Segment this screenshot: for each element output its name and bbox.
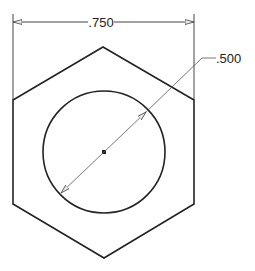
diameter-leader-line: [146, 58, 216, 112]
diameter-dimension-text: .500: [216, 51, 241, 66]
diameter-dimension-line: [61, 112, 146, 193]
technical-drawing: .750 .500: [0, 0, 255, 271]
width-dimension-text: .750: [88, 15, 113, 30]
